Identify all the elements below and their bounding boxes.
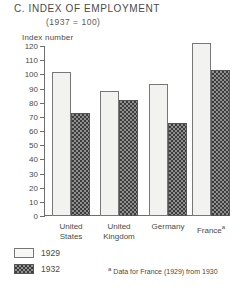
footnote-text: Data for France (1929) from 1930 [113, 268, 217, 275]
chart-subtitle: (1937 = 100) [46, 17, 100, 27]
y-tick-mark [40, 159, 45, 160]
y-tick-label: 100 [25, 70, 38, 79]
x-label-footnote-marker: a [222, 224, 225, 230]
x-axis-label: Germany [152, 222, 185, 232]
legend-item-1932: 1932 [14, 262, 60, 275]
y-tick-label: 40 [29, 155, 38, 164]
chart-title: C. INDEX OF EMPLOYMENT [14, 3, 160, 14]
bar-1929 [100, 91, 119, 216]
y-tick-mark [40, 145, 45, 146]
y-tick-label: 60 [29, 127, 38, 136]
bar-1929 [192, 43, 211, 216]
x-axis-label: UnitedStates [59, 222, 82, 242]
y-tick-label: 120 [25, 42, 38, 51]
bar-group: UnitedStates [52, 46, 90, 216]
bar-group: Francea [192, 46, 230, 216]
y-tick-mark [40, 89, 45, 90]
y-tick-label: 0 [34, 212, 38, 221]
y-tick-mark [40, 216, 45, 217]
chart-footnote: aData for France (1929) from 1930 [108, 266, 218, 275]
y-tick-label: 90 [29, 84, 38, 93]
y-tick-mark [40, 202, 45, 203]
plot-area: 1201101009080706050403020100 UnitedState… [44, 46, 230, 216]
bar-1929 [149, 84, 168, 216]
y-tick-label: 80 [29, 98, 38, 107]
legend-swatch-1929 [14, 248, 34, 258]
y-tick-mark [40, 188, 45, 189]
y-tick-mark [40, 74, 45, 75]
legend-label-1932: 1932 [41, 264, 60, 274]
y-tick-mark [40, 103, 45, 104]
bar-1932 [168, 123, 187, 217]
bar-group: Germany [149, 46, 187, 216]
bar-1932 [71, 113, 90, 216]
y-tick-mark [40, 117, 45, 118]
y-tick-label: 20 [29, 183, 38, 192]
x-axis-label: UnitedKingdom [103, 222, 135, 242]
x-axis-label: Francea [197, 222, 225, 236]
legend-item-1929: 1929 [14, 246, 60, 259]
legend: 1929 1932 [14, 246, 60, 278]
y-tick-label: 50 [29, 141, 38, 150]
y-tick-label: 30 [29, 169, 38, 178]
legend-swatch-1932 [14, 264, 34, 274]
y-tick-label: 10 [29, 197, 38, 206]
y-tick-mark [40, 131, 45, 132]
y-tick-mark [40, 174, 45, 175]
bar-1932 [211, 70, 230, 216]
bar-1932 [119, 100, 138, 216]
y-tick-mark [40, 60, 45, 61]
y-tick-label: 110 [25, 56, 38, 65]
footnote-marker: a [108, 266, 111, 272]
employment-index-chart: C. INDEX OF EMPLOYMENT (1937 = 100) Inde… [0, 0, 237, 289]
y-tick-mark [40, 46, 45, 47]
bar-1929 [52, 72, 71, 217]
y-tick-label: 70 [29, 112, 38, 121]
bar-group: UnitedKingdom [100, 46, 138, 216]
legend-label-1929: 1929 [41, 248, 60, 258]
